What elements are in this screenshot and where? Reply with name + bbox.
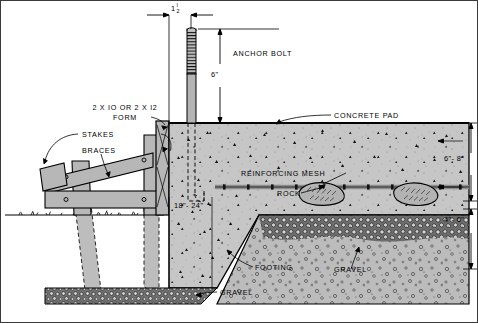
dimension-bolt-offset-text: 1I2 <box>171 4 182 14</box>
label-gravel-bottom: GRAVEL <box>220 288 253 297</box>
dimension-gravel-depth-text: 4"- 6" <box>444 215 464 224</box>
dimension-bolt-exposed-text: 6" <box>211 70 219 79</box>
dimension-footing-width-text: 18"- 24" <box>174 201 203 210</box>
label-reinforcing-mesh: REINFORCING MESH <box>241 169 325 178</box>
label-braces: BRACES <box>82 146 116 155</box>
label-footing: FOOTING <box>255 263 293 272</box>
gravel-fill-right <box>217 215 469 304</box>
label-form-line1: 2 X IO OR 2 X I2 <box>92 103 157 112</box>
form-board <box>156 121 169 215</box>
label-anchor-bolt: ANCHOR BOLT <box>233 49 292 58</box>
label-concrete-pad: CONCRETE PAD <box>334 111 399 120</box>
gravel-bed-footing <box>45 288 217 304</box>
dimension-pad-thickness-text: 6"- 8" <box>444 154 464 163</box>
label-rock: ROCK <box>277 189 301 198</box>
brace-horizontal <box>45 191 157 208</box>
label-form-line2: FORM <box>113 113 137 122</box>
label-gravel-right: GRAVEL <box>334 265 367 274</box>
drawing-canvas: 1I2 6" 6"- 8" 4"- 6" 18"- 24" ANCHOR BOL… <box>0 0 478 323</box>
label-stakes: STAKES <box>82 130 114 139</box>
